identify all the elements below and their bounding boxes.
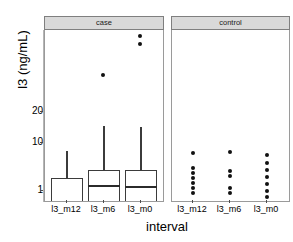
whisker-case-l3_m6 — [103, 126, 105, 171]
dot-control-l3_m0-3 — [265, 168, 269, 172]
dot-control-l3_m6-4 — [228, 186, 232, 190]
dot-control-l3_m6-1 — [228, 150, 232, 154]
outlier-case-l3_m6-1 — [101, 73, 105, 77]
dot-control-l3_m0-2 — [265, 161, 269, 165]
box-case-l3_m12 — [51, 178, 83, 202]
dot-control-l3_m12-6 — [191, 186, 195, 190]
x-tick-mark-case-l3_m12 — [66, 200, 67, 203]
whisker-case-l3_m0 — [140, 127, 142, 171]
dot-control-l3_m0-6 — [265, 189, 269, 193]
dot-control-l3_m6-3 — [228, 174, 232, 178]
y-tick-mark-10 — [40, 142, 43, 143]
outlier-case-l3_m0-2 — [138, 42, 142, 46]
x-tick-mark-control-l3_m0 — [266, 200, 267, 203]
x-axis-title: interval — [44, 219, 290, 234]
x-tick-mark-control-l3_m6 — [229, 200, 230, 203]
dot-control-l3_m0-5 — [265, 182, 269, 186]
dot-control-l3_m12-1 — [191, 151, 195, 155]
dot-control-l3_m12-4 — [191, 176, 195, 180]
median-case-l3_m6 — [88, 185, 120, 187]
x-tick-mark-case-l3_m0 — [140, 200, 141, 203]
x-tick-label-case-l3_m0: l3_m0 — [118, 204, 162, 214]
dot-control-l3_m12-5 — [191, 181, 195, 185]
panel-body-control — [171, 30, 290, 202]
panel-body-case — [44, 30, 164, 202]
x-tick-label-control-l3_m0: l3_m0 — [244, 204, 288, 214]
x-tick-mark-case-l3_m6 — [103, 200, 104, 203]
dot-control-l3_m0-4 — [265, 175, 269, 179]
panel-case: case — [44, 16, 164, 202]
panel-strip-control: control — [171, 16, 290, 30]
dot-control-l3_m0-1 — [265, 153, 269, 157]
dot-control-l3_m6-2 — [228, 169, 232, 173]
outlier-case-l3_m0-1 — [138, 34, 142, 38]
dot-control-l3_m12-3 — [191, 171, 195, 175]
panel-control: control — [171, 16, 290, 202]
dot-control-l3_m12-7 — [191, 191, 195, 195]
boxplot-figure: l3 (ng/mL) 20 10 1 case contro — [0, 0, 293, 242]
y-tick-mark-1 — [40, 190, 43, 191]
panel-strip-case: case — [44, 16, 164, 30]
y-tick-mark-20 — [40, 111, 43, 112]
dot-control-l3_m0-7 — [265, 195, 269, 199]
median-case-l3_m0 — [125, 186, 157, 188]
whisker-case-l3_m12 — [66, 151, 68, 179]
x-tick-mark-control-l3_m12 — [192, 200, 193, 203]
dot-control-l3_m12-2 — [191, 166, 195, 170]
dot-control-l3_m6-5 — [228, 191, 232, 195]
